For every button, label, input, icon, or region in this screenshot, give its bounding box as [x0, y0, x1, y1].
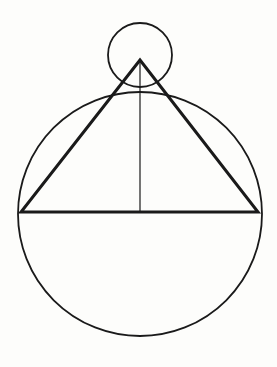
figure-canvas: [0, 0, 277, 367]
geometry-figure: [0, 0, 277, 367]
